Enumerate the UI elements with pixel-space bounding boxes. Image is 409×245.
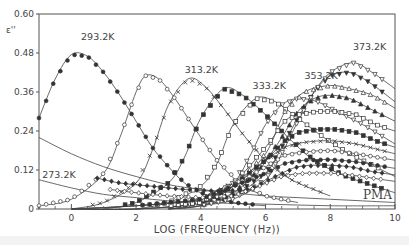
curve-label: 273.2K — [42, 169, 76, 180]
dielectric-loss-chart: 00.120.240.360.480.600246810 ε'' LOG (FR… — [0, 0, 409, 245]
y-tick-label: 0.48 — [14, 48, 34, 58]
x-tick-label: 0 — [68, 213, 74, 223]
x-tick-label: 2 — [133, 213, 139, 223]
y-tick-label: 0.60 — [14, 9, 34, 19]
curve-label: 293.2K — [81, 31, 115, 42]
y-tick-label: 0.36 — [14, 87, 34, 97]
curve-label: 373.2K — [353, 41, 387, 52]
x-tick-label: 6 — [263, 213, 269, 223]
y-tick-label: 0.12 — [14, 165, 34, 175]
pma-annotation: PMA — [363, 188, 392, 202]
y-axis-label: ε'' — [6, 25, 16, 35]
curve-label: 353.2K — [304, 70, 338, 81]
y-tick-label: 0 — [28, 204, 34, 214]
x-tick-label: 10 — [389, 213, 401, 223]
y-tick-label: 0.24 — [14, 126, 34, 136]
x-axis-label: LOG (FREQUENCY (Hz)) — [154, 224, 281, 235]
curve-label: 313.2K — [185, 64, 219, 75]
x-tick-label: 8 — [327, 213, 333, 223]
bottom-margin — [0, 236, 409, 245]
curve-label: 333.2K — [253, 80, 287, 91]
x-tick-label: 4 — [198, 213, 204, 223]
